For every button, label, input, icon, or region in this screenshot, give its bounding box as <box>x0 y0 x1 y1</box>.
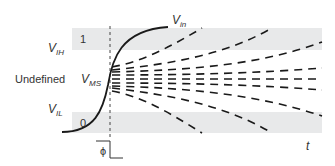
metastability-diagram: 1 0 ϕ Vin VIH Undefined VMS VIL t <box>0 0 335 166</box>
v-in-label: Vin <box>172 13 187 29</box>
v-ms-label: VMS <box>81 72 102 88</box>
v-ih-label: VIH <box>48 41 64 57</box>
v-ih-sub: IH <box>56 48 64 57</box>
undefined-region-label: Undefined <box>15 73 65 85</box>
time-axis-label: t <box>306 139 310 153</box>
v-in-sub: in <box>180 20 187 29</box>
clock-symbol: ϕ <box>100 145 106 157</box>
v-il-label: VIL <box>48 102 63 118</box>
v-il-sub: IL <box>56 109 63 118</box>
band-high-label: 1 <box>80 33 86 45</box>
v-ms-sub: MS <box>89 79 102 88</box>
